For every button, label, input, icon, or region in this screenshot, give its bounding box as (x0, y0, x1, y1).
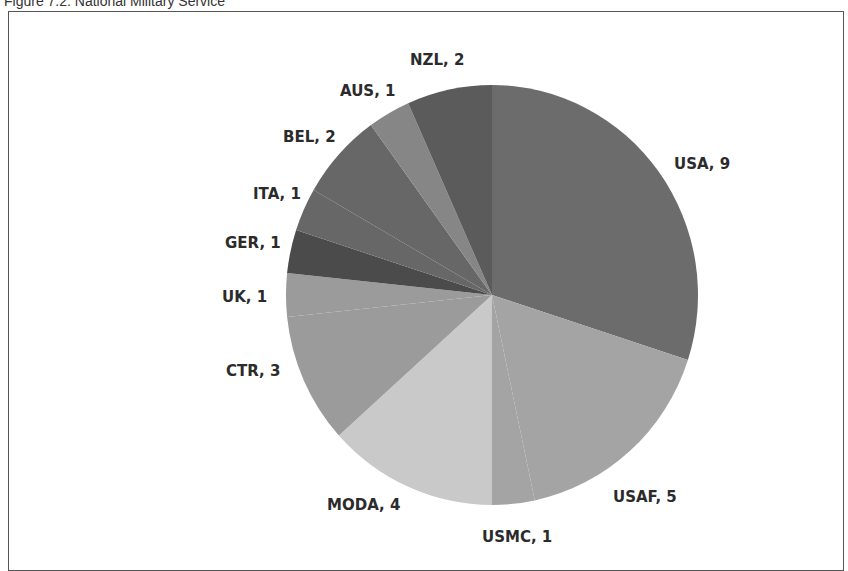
label-ger: GER, 1 (225, 234, 281, 252)
label-moda: MODA, 4 (327, 496, 400, 514)
label-nzl: NZL, 2 (410, 51, 464, 69)
label-usaf: USAF, 5 (613, 488, 677, 506)
label-usmc: USMC, 1 (482, 528, 552, 546)
label-aus: AUS, 1 (340, 82, 396, 100)
label-ita: ITA, 1 (253, 185, 301, 203)
label-bel: BEL, 2 (283, 128, 336, 146)
label-ctr: CTR, 3 (226, 362, 280, 380)
label-uk: UK, 1 (222, 288, 267, 306)
label-usa: USA, 9 (674, 155, 730, 173)
pie-slices (286, 85, 698, 505)
